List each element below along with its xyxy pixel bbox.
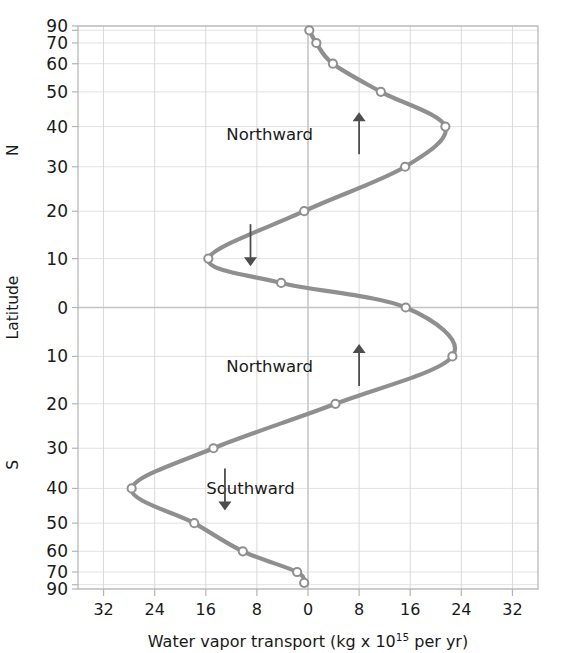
- data-point-marker[interactable]: [329, 60, 337, 68]
- x-axis-tick-label: 8: [252, 600, 262, 619]
- y-axis-tick-label: 10: [46, 346, 68, 366]
- data-point-marker[interactable]: [239, 547, 247, 555]
- hemisphere-label-north: N: [4, 144, 22, 156]
- annotation-arrow-head: [353, 112, 366, 121]
- y-axis-title: Latitude: [4, 276, 22, 340]
- data-point-marker[interactable]: [293, 568, 301, 576]
- annotation-arrow-head: [353, 344, 366, 353]
- y-axis-tick-label: 90: [46, 579, 68, 599]
- y-axis-tick-label: 30: [46, 157, 68, 177]
- y-axis-tick-label: 0: [57, 298, 68, 318]
- y-axis-tick-label: 40: [46, 117, 68, 137]
- data-point-marker[interactable]: [377, 88, 385, 96]
- x-axis-title: Water vapor transport (kg x 1015 per yr): [148, 631, 468, 651]
- data-point-marker[interactable]: [128, 484, 136, 492]
- x-axis-tick-label: 8: [354, 600, 364, 619]
- data-point-marker[interactable]: [204, 255, 212, 263]
- y-axis-ticks: [72, 26, 78, 589]
- y-axis-tick-label: 30: [46, 438, 68, 458]
- data-point-marker[interactable]: [277, 279, 285, 287]
- data-point-marker[interactable]: [190, 519, 198, 527]
- y-axis-tick-label: 40: [46, 478, 68, 498]
- annotation-label: Northward: [226, 357, 313, 376]
- water-vapor-transport-chart: 907060504030201001020304050607090 322416…: [0, 0, 569, 653]
- x-axis-tick-label: 32: [93, 600, 113, 619]
- y-axis-tick-label: 20: [46, 394, 68, 414]
- y-axis-tick-label: 50: [46, 82, 68, 102]
- data-point-marker[interactable]: [402, 303, 410, 311]
- data-point-marker[interactable]: [312, 39, 320, 47]
- x-axis-tick-label: 24: [451, 600, 471, 619]
- y-axis-tick-label: 50: [46, 513, 68, 533]
- data-point-marker[interactable]: [305, 26, 313, 34]
- data-point-marker[interactable]: [300, 207, 308, 215]
- y-axis-tick-label: 10: [46, 249, 68, 269]
- data-point-marker[interactable]: [448, 352, 456, 360]
- data-point-marker[interactable]: [331, 400, 339, 408]
- y-axis-tick-labels: 907060504030201001020304050607090: [46, 16, 68, 599]
- data-point-marker[interactable]: [401, 163, 409, 171]
- x-axis-tick-label: 0: [303, 600, 313, 619]
- data-point-marker[interactable]: [300, 579, 308, 587]
- annotation-arrow-head: [218, 501, 231, 510]
- y-axis-tick-label: 60: [46, 54, 68, 74]
- x-axis-tick-label: 16: [400, 600, 420, 619]
- x-axis-tick-label: 16: [196, 600, 216, 619]
- x-axis-tick-labels: 322416808162432: [93, 600, 522, 619]
- x-axis-ticks: [104, 589, 513, 596]
- annotation-label: Northward: [226, 125, 313, 144]
- axis-titles: LatitudeNSWater vapor transport (kg x 10…: [4, 144, 468, 651]
- x-axis-tick-label: 32: [502, 600, 522, 619]
- annotation-label: Southward: [206, 479, 295, 498]
- data-point-marker[interactable]: [209, 444, 217, 452]
- chart-container: 907060504030201001020304050607090 322416…: [0, 0, 569, 653]
- hemisphere-label-south: S: [4, 460, 22, 470]
- y-axis-tick-label: 70: [46, 33, 68, 53]
- data-point-marker[interactable]: [441, 122, 449, 130]
- y-axis-tick-label: 20: [46, 201, 68, 221]
- annotations: NorthwardNorthwardSouthward: [206, 112, 365, 510]
- y-axis-tick-label: 60: [46, 541, 68, 561]
- x-axis-tick-label: 24: [144, 600, 164, 619]
- annotation-arrow-head: [244, 257, 257, 266]
- data-point-markers: [128, 26, 457, 587]
